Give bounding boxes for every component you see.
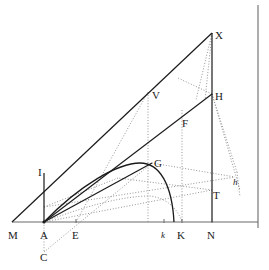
dotted-X-H-fan-b <box>205 33 212 100</box>
dotted-H-down-right <box>212 94 240 190</box>
dotted-construction-lines <box>44 33 240 252</box>
label-point-k: K <box>177 230 185 241</box>
dotted-G-h <box>152 163 235 177</box>
label-point-n: N <box>207 230 215 241</box>
arc-A-G-k <box>44 163 174 222</box>
label-point-m: M <box>8 230 18 241</box>
label-point-v: V <box>152 90 160 101</box>
dotted-E-up-V <box>76 92 148 222</box>
label-point-f: F <box>182 118 188 129</box>
label-point-h: H <box>215 91 223 102</box>
dotted-A-T <box>44 190 212 222</box>
dotted-A-h <box>44 177 235 207</box>
point-markers <box>42 220 45 223</box>
label-point-i: I <box>38 167 42 178</box>
label-point-e: E <box>72 230 79 241</box>
label-point-k: k <box>161 230 165 241</box>
solid-arc <box>44 163 174 222</box>
label-point-x: X <box>215 30 223 41</box>
label-point-t: T <box>213 190 220 201</box>
label-point-a: A <box>40 230 48 241</box>
label-point-c: C <box>40 252 47 263</box>
geometry-figure: MACEIGFVXHTNKkh <box>0 0 269 270</box>
point-marker-a <box>42 220 45 223</box>
label-point-h: h <box>233 177 238 188</box>
dotted-H-h <box>212 94 237 172</box>
dotted-T-farleft <box>44 178 118 207</box>
label-point-g: G <box>154 158 162 169</box>
